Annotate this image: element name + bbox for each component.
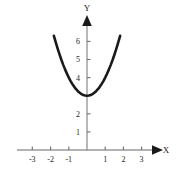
plot-background	[0, 0, 177, 175]
x-tick-label: -3	[29, 155, 36, 164]
y-tick-label: 6	[76, 37, 80, 46]
x-tick-label: 2	[121, 155, 125, 164]
y-tick-label: 1	[76, 128, 80, 137]
y-tick-label: 2	[76, 110, 80, 119]
y-axis-label: Y	[84, 3, 91, 13]
x-tick-label: 1	[103, 155, 107, 164]
x-tick-label: -1	[65, 155, 72, 164]
x-tick-label: 3	[140, 155, 144, 164]
y-tick-label: 5	[76, 55, 80, 64]
parabola-plot: -3 -2 -1 1 2 3 1 2 4 5 6 X Y	[0, 0, 177, 175]
chart-figure: -3 -2 -1 1 2 3 1 2 4 5 6 X Y	[0, 0, 177, 175]
x-tick-label: -2	[47, 155, 54, 164]
x-axis-label: X	[163, 145, 170, 155]
y-tick-label: 4	[76, 74, 80, 83]
